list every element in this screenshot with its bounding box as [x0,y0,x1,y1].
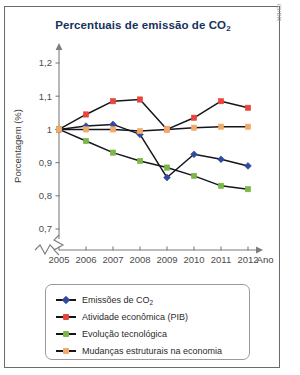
legend-item[interactable]: Mudanças estruturais na economia [56,343,222,359]
legend-swatch-icon [56,313,76,321]
svg-text:0,8: 0,8 [39,190,52,201]
data-point-marker [245,124,250,129]
data-point-marker [191,173,196,178]
chart-legend: Emissões de CO2Atividade econômica (PIB)… [45,284,250,360]
svg-text:2010: 2010 [183,254,204,265]
svg-text:0,9: 0,9 [39,157,52,168]
data-point-marker [83,138,88,143]
data-point-marker [164,165,169,170]
data-point-marker [56,127,61,132]
data-point-marker [137,158,142,163]
data-point-marker [110,98,115,103]
data-point-marker [245,186,250,191]
data-point-marker [110,127,115,132]
legend-item-label: Atividade econômica (PIB) [82,312,188,322]
data-point-marker [191,115,196,120]
data-point-marker [191,125,196,130]
svg-text:1,1: 1,1 [39,91,52,102]
legend-item-label: Evolução tecnológica [82,329,167,339]
legend-label-subscript: 2 [150,299,154,306]
legend-swatch-icon [56,330,76,338]
svg-text:2008: 2008 [129,254,150,265]
data-point-marker [245,105,250,110]
legend-item[interactable]: Evolução tecnológica [56,326,167,342]
legend-swatch-icon [56,296,76,304]
svg-text:Ano: Ano [257,254,274,265]
legend-swatch-icon [56,347,76,355]
svg-text:2006: 2006 [75,254,96,265]
svg-text:2005: 2005 [48,254,69,265]
svg-text:0,7: 0,7 [39,223,52,234]
data-point-marker [110,150,115,155]
legend-item[interactable]: Emissões de CO2 [56,292,153,308]
legend-item-label: Mudanças estruturais na economia [82,346,222,356]
series-line [59,124,248,177]
credit-label: ID/BR [276,4,282,22]
svg-text:Porcentagem (%): Porcentagem (%) [12,109,23,183]
legend-item[interactable]: Atividade econômica (PIB) [56,309,188,325]
svg-text:1: 1 [47,124,52,135]
data-point-marker [137,97,142,102]
data-point-marker [83,112,88,117]
svg-text:2012: 2012 [237,254,258,265]
figure-page: Percentuais de emissão de CO2 0,70,80,91… [0,0,300,375]
svg-text:2007: 2007 [102,254,123,265]
data-point-marker [218,124,223,129]
data-point-marker [164,127,169,132]
data-point-marker [245,163,252,170]
data-point-marker [218,183,223,188]
data-point-marker [83,127,88,132]
data-point-marker [218,156,225,163]
legend-item-label: Emissões de CO2 [82,295,153,305]
data-point-marker [218,98,223,103]
svg-text:1,2: 1,2 [39,57,52,68]
figure-frame: Percentuais de emissão de CO2 0,70,80,91… [4,6,280,368]
data-point-marker [137,128,142,133]
svg-text:2011: 2011 [211,254,231,265]
svg-text:2009: 2009 [156,254,177,265]
